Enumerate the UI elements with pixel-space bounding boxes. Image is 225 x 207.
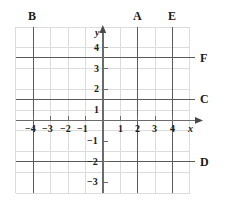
x-tick-1: 1 — [118, 124, 123, 134]
y-tick-minus-3: −3 — [87, 177, 98, 187]
coordinate-grid-figure: B A E F C D y x −4 −3 −2 −1 1 2 3 4 4 3 … — [0, 0, 225, 207]
line-label-C: C — [200, 93, 209, 105]
x-tick-3: 3 — [152, 124, 157, 134]
coordinate-plane-graphic — [0, 0, 225, 207]
y-axis-arrow — [99, 25, 106, 33]
x-tick-minus-4: −4 — [25, 124, 36, 134]
x-tick-2: 2 — [135, 124, 140, 134]
line-label-E: E — [168, 10, 176, 22]
y-tick-2: 2 — [94, 84, 99, 94]
y-tick-1: 1 — [94, 105, 99, 115]
line-label-D: D — [200, 156, 209, 168]
y-tick-3: 3 — [94, 64, 99, 74]
x-axis-label: x — [188, 124, 193, 134]
axes — [16, 30, 197, 193]
y-tick-minus-1: −1 — [87, 136, 98, 146]
y-tick-4: 4 — [94, 43, 99, 53]
x-axis-arrow — [195, 117, 203, 124]
x-tick-minus-3: −3 — [42, 124, 53, 134]
line-label-A: A — [133, 10, 142, 22]
line-label-B: B — [28, 10, 36, 22]
line-label-F: F — [200, 52, 207, 64]
x-tick-4: 4 — [170, 124, 175, 134]
y-tick-minus-2: −2 — [87, 157, 98, 167]
x-tick-minus-1: −1 — [77, 124, 88, 134]
x-tick-minus-2: −2 — [60, 124, 71, 134]
y-axis-label: y — [95, 28, 99, 38]
